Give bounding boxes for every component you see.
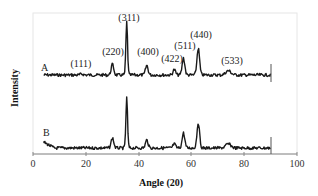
peak-label-533: (533) xyxy=(221,55,243,67)
peak-label-220: (220) xyxy=(102,46,124,58)
x-axis-title: Angle (20) xyxy=(139,177,183,189)
peak-label-440: (440) xyxy=(190,29,212,41)
x-tick-0: 0 xyxy=(31,158,36,169)
peak-label-511: (511) xyxy=(174,40,195,52)
series-label-a: A xyxy=(41,62,49,73)
peak-labels: (111) (220) (311) (400) (422) (511) (440… xyxy=(71,12,243,70)
x-tick-20: 20 xyxy=(81,158,91,169)
y-axis-title: Intensity xyxy=(9,69,20,107)
trace-b xyxy=(44,97,271,150)
peak-label-400: (400) xyxy=(137,46,159,58)
plot-frame xyxy=(33,13,297,154)
peak-label-111: (111) xyxy=(71,58,92,70)
series-label-b: B xyxy=(43,127,50,138)
x-tick-60: 60 xyxy=(186,158,196,169)
peak-label-311: (311) xyxy=(118,12,139,24)
xrd-chart: 0 20 40 60 80 100 Angle (20) Intensity A… xyxy=(0,0,318,196)
x-tick-40: 40 xyxy=(134,158,144,169)
x-tick-80: 80 xyxy=(239,158,249,169)
x-tick-100: 100 xyxy=(290,158,305,169)
peak-label-422: (422) xyxy=(161,53,183,65)
x-tick-labels: 0 20 40 60 80 100 xyxy=(31,158,305,169)
